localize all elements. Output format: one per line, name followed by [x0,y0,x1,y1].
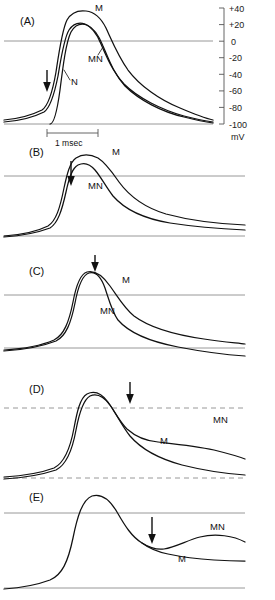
voltage-tick-m80: -80 [229,103,242,113]
panel-c: (C) M MN [4,255,245,356]
panel-e-label: (E) [29,491,44,503]
panel-a-n-leader [64,70,70,80]
panel-b-label: (B) [29,146,44,158]
panel-e-trace-label-m: M [178,553,186,564]
panel-b-trace-mn [4,164,245,237]
panel-c-trace-label-mn: MN [100,305,115,316]
voltage-axis: +40 +20 0 -20 -40 -60 -80 -100 mV [219,4,247,143]
panel-c-trace-label-m: M [122,274,130,285]
panel-a: (A) M MN N [4,2,213,124]
panel-d-label: (D) [29,383,44,395]
panel-b-trace-label-mn: MN [88,180,103,191]
panel-d: (D) MN M [4,382,245,479]
voltage-tick-40: +40 [229,4,244,14]
panel-c-stimulus-arrow [91,255,99,272]
electrophysiology-figure: (A) M MN N +40 +20 0 -20 -40 -60 -80 -10… [0,0,275,600]
voltage-axis-unit: mV [231,132,245,142]
panel-d-trace-label-mn: MN [213,414,228,425]
panel-d-trace-label-m: M [160,435,168,446]
panel-b: (B) M MN [4,146,245,237]
voltage-tick-m60: -60 [229,86,242,96]
panel-e-trace-mn [4,495,245,589]
panel-b-trace-m [4,155,245,236]
panel-e-trace-m [142,543,245,561]
panel-d-stimulus-arrow [126,382,134,404]
panel-a-stimulus-arrow [43,70,51,92]
voltage-tick-m40: -40 [229,70,242,80]
panel-a-trace-label-mn: MN [88,53,103,64]
panel-e: (E) MN M [4,491,245,589]
time-scale-bar: 1 msec [47,129,98,148]
voltage-tick-0: 0 [231,37,236,47]
panel-b-trace-label-m: M [112,146,120,157]
panel-c-trace-mn [4,273,245,356]
panel-a-trace-label-m: M [95,2,103,13]
panel-e-stimulus-arrow [148,517,156,544]
voltage-tick-m20: -20 [229,53,242,63]
panel-a-trace-m [4,11,213,120]
panel-a-trace-label-n: N [71,76,78,87]
voltage-tick-m100: -100 [229,120,247,130]
panel-a-label: (A) [20,15,35,27]
panel-d-trace-mn [4,392,245,477]
panel-e-trace-label-mn: MN [210,521,225,532]
panel-a-trace-mn [4,23,213,122]
time-scale-label: 1 msec [55,138,83,148]
voltage-tick-20: +20 [229,20,244,30]
panel-c-label: (C) [29,265,44,277]
